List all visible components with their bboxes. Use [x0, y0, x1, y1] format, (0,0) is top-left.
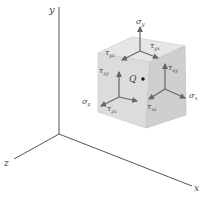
point-q-dot	[141, 77, 144, 80]
z-axis	[14, 134, 59, 159]
sigma-x-label: σx	[189, 91, 198, 101]
y-axis-label: y	[48, 4, 55, 15]
diagram-canvas: y z x σy τyz τyx τzy σz τzx τxy σx τxz Q	[0, 0, 208, 197]
x-axis-label: x	[194, 183, 199, 193]
stress-cube	[98, 37, 186, 128]
sigma-z-label: σz	[82, 97, 90, 107]
x-axis	[59, 134, 192, 186]
stress-element-diagram: y z x σy τyz τyx τzy σz τzx τxy σx τxz Q	[0, 0, 208, 197]
sigma-y-label: σy	[136, 17, 145, 28]
z-axis-label: z	[3, 158, 9, 168]
point-q-label: Q	[129, 74, 137, 84]
cube-front-face	[98, 53, 150, 128]
